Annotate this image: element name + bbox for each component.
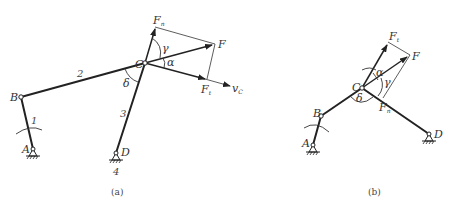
- joint-d-icon: [114, 151, 118, 155]
- label-angle-alpha: α: [376, 66, 384, 79]
- angle-alpha-arc: [163, 58, 165, 68]
- parallelogram-edge: [207, 44, 215, 79]
- label-link-2: 2: [76, 68, 83, 79]
- label-point-b: B: [312, 107, 321, 120]
- angle-gamma-arc: [152, 38, 161, 58]
- joint-c-icon: [360, 86, 364, 90]
- label-point-d: D: [120, 146, 130, 159]
- label-point-a: A: [21, 143, 30, 156]
- label-angle-delta: δ: [123, 77, 130, 90]
- label-force-ft: Ft: [200, 83, 212, 96]
- velocity-vc-line: [205, 79, 230, 86]
- joint-b-icon: [19, 95, 23, 99]
- label-point-b: B: [9, 91, 18, 104]
- force-ft-arrow: [145, 63, 205, 79]
- figure-b: B A C D F Ft Fn α γ δ (b): [301, 30, 443, 197]
- label-force-f: F: [217, 38, 226, 51]
- label-link-1: 1: [31, 115, 37, 126]
- label-link-4: 4: [112, 166, 119, 177]
- label-point-d: D: [433, 128, 443, 141]
- label-point-c: C: [135, 58, 144, 71]
- caption-a: (a): [111, 187, 123, 197]
- label-link-3: 3: [120, 108, 126, 119]
- label-angle-gamma: γ: [384, 76, 391, 89]
- force-fn-arrow: [145, 29, 155, 63]
- joint-d-icon: [427, 132, 431, 136]
- label-angle-delta: δ: [356, 92, 363, 105]
- joint-a-icon: [311, 143, 315, 147]
- joint-a-icon: [31, 147, 35, 151]
- figure-a: B A C D 1 2 3 4 F Fn Ft vC γ α δ (a): [9, 14, 243, 197]
- label-point-a: A: [301, 137, 310, 150]
- parallelogram-edge: [388, 42, 410, 55]
- four-bar-linkage-diagram: B A C D 1 2 3 4 F Fn Ft vC γ α δ (a): [0, 0, 452, 212]
- caption-b: (b): [368, 187, 381, 197]
- label-force-f: F: [411, 50, 420, 63]
- label-angle-alpha: α: [167, 56, 175, 69]
- label-angle-gamma: γ: [162, 42, 169, 55]
- angle-gamma-arc: [378, 78, 382, 96]
- label-force-ft: Ft: [388, 30, 400, 43]
- label-force-fn: Fn: [152, 14, 165, 27]
- link-1-crank: [313, 116, 321, 145]
- joint-c-icon: [143, 61, 147, 65]
- label-velocity-vc: vC: [232, 82, 243, 95]
- link-3-rocker: [362, 88, 429, 134]
- force-f-arrow: [145, 45, 212, 63]
- label-force-fn: Fn: [378, 101, 391, 114]
